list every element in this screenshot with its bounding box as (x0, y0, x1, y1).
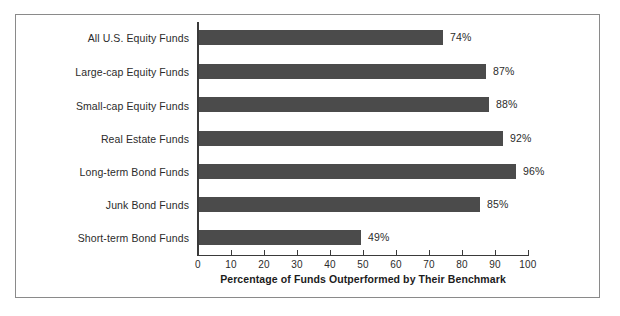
bar (199, 64, 486, 79)
x-axis-tick (264, 250, 265, 256)
bar (199, 30, 443, 45)
x-axis-tick (495, 250, 496, 256)
bar (199, 131, 503, 146)
bar-value-label: 85% (487, 198, 509, 210)
bar-value-label: 96% (523, 165, 545, 177)
x-axis-title: Percentage of Funds Outperformed by Thei… (197, 273, 529, 285)
category-label: Long-term Bond Funds (0, 166, 189, 178)
x-axis-tick (429, 250, 430, 256)
bar-value-label: 74% (450, 31, 472, 43)
x-axis-tick (528, 250, 529, 256)
x-axis-tick (396, 250, 397, 256)
category-label: Short-term Bond Funds (0, 232, 189, 244)
category-label: Junk Bond Funds (0, 199, 189, 211)
bar-value-label: 88% (496, 98, 518, 110)
bar-value-label: 49% (368, 231, 390, 243)
x-axis-tick (330, 250, 331, 256)
category-label: Real Estate Funds (0, 133, 189, 145)
bar (199, 97, 489, 112)
bar (199, 164, 516, 179)
x-axis-tick (231, 250, 232, 256)
bar (199, 197, 480, 212)
bar (199, 230, 361, 245)
category-label: Large-cap Equity Funds (0, 66, 189, 78)
x-axis-tick (462, 250, 463, 256)
category-label: Small-cap Equity Funds (0, 100, 189, 112)
bar-value-label: 87% (493, 65, 515, 77)
bar-value-label: 92% (510, 132, 532, 144)
category-label: All U.S. Equity Funds (0, 32, 189, 44)
x-axis-tick (198, 250, 199, 256)
x-axis-tick (297, 250, 298, 256)
figure-page: 0 10 20 30 40 50 60 70 80 90 100 All U.S… (0, 0, 620, 316)
x-tick-label: 100 (508, 259, 548, 270)
x-axis-tick (363, 250, 364, 256)
bar-chart: 0 10 20 30 40 50 60 70 80 90 100 All U.S… (0, 0, 620, 316)
